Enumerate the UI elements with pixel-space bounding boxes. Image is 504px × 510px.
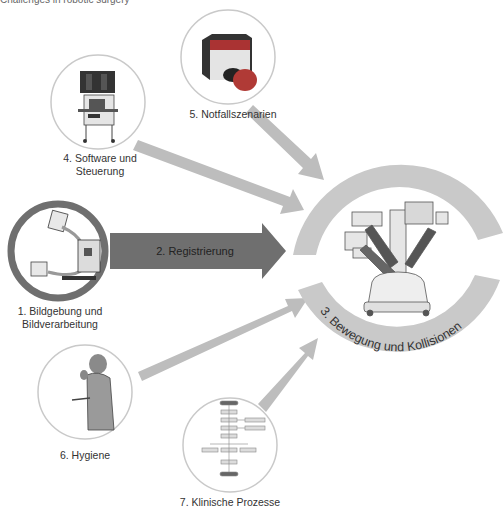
node-emergency	[181, 10, 275, 104]
label-imaging-line2: Bildverarbeitung	[2, 318, 118, 331]
registration-label: 2. Registrierung	[156, 245, 234, 257]
diagram-canvas: 3. Bewegung und Kollisionen	[0, 0, 504, 510]
arrow-process-to-center	[258, 338, 318, 412]
label-emergency: 5. Notfallszenarien	[178, 108, 288, 121]
label-software: 4. Software und Steuerung	[45, 152, 155, 178]
label-imaging: 1. Bildgebung und Bildverarbeitung	[2, 305, 118, 331]
label-software-line2: Steuerung	[45, 165, 155, 178]
node-clinical-process	[183, 398, 277, 492]
arrow-software-to-center	[133, 140, 304, 214]
label-software-line1: 4. Software und	[45, 152, 155, 165]
arrow-hygiene-to-center	[138, 298, 308, 381]
title-cut: Challenges in robotic surgery	[0, 0, 260, 5]
label-hygiene: 6. Hygiene	[40, 449, 130, 462]
node-imaging	[11, 204, 105, 298]
label-clinical-process: 7. Klinische Prozesse	[170, 496, 290, 509]
surgical-robot-icon	[345, 202, 448, 316]
node-software	[51, 55, 145, 149]
label-imaging-line1: 1. Bildgebung und	[2, 305, 118, 318]
node-hygiene	[38, 345, 132, 439]
